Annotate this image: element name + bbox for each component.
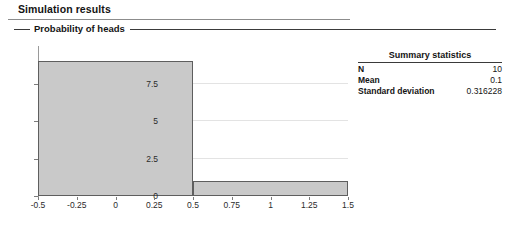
summary-statistics-title: Summary statistics <box>358 50 502 62</box>
summary-statistics-row: Standard deviation0.316228 <box>358 86 502 97</box>
x-axis-tick-label: -0.5 <box>31 200 46 210</box>
histogram-bar <box>193 181 348 196</box>
summary-statistics-value: 0.1 <box>490 75 502 86</box>
summary-statistics-label: N <box>358 64 364 75</box>
x-axis-tick-mark <box>193 197 194 200</box>
summary-statistics-value: 10 <box>493 64 502 75</box>
summary-statistics-table: Summary statistics N10Mean0.1Standard de… <box>358 50 502 97</box>
x-axis-tick-label: 0.25 <box>146 200 163 210</box>
x-axis-tick-label: 1 <box>268 200 273 210</box>
summary-statistics-divider <box>358 62 502 63</box>
y-axis-tick-mark <box>34 121 38 122</box>
summary-statistics-row: N10 <box>358 64 502 75</box>
x-axis-tick-mark <box>309 197 310 200</box>
x-axis-tick-mark <box>348 197 349 200</box>
x-axis-tick-label: 0 <box>113 200 118 210</box>
y-axis-tick-label: 2.5 <box>146 154 158 164</box>
summary-statistics-value: 0.316228 <box>467 86 502 97</box>
x-axis-tick-mark <box>154 197 155 200</box>
x-axis-tick-mark <box>116 197 117 200</box>
y-axis-tick-mark <box>34 84 38 85</box>
y-axis-tick-label: 5 <box>153 116 158 126</box>
x-axis-tick-label: -0.25 <box>67 200 86 210</box>
y-axis-tick-mark <box>34 159 38 160</box>
y-axis-tick-label: 7.5 <box>146 79 158 89</box>
summary-statistics-label: Mean <box>358 75 380 86</box>
summary-statistics-label: Standard deviation <box>358 86 435 97</box>
x-axis-tick-label: 0.75 <box>223 200 240 210</box>
x-axis-tick-mark <box>232 197 233 200</box>
x-axis-tick-mark <box>271 197 272 200</box>
histogram-bar <box>38 61 193 196</box>
summary-statistics-row: Mean0.1 <box>358 75 502 86</box>
x-axis-tick-label: 0.5 <box>187 200 199 210</box>
x-axis-tick-label: 1.25 <box>301 200 318 210</box>
histogram-chart: 02.557.5-0.5-0.2500.250.50.7511.251.5 <box>0 0 510 230</box>
x-axis-tick-mark <box>77 197 78 200</box>
x-axis-tick-mark <box>38 197 39 200</box>
x-axis-tick-label: 1.5 <box>342 200 354 210</box>
plot-area <box>38 46 348 196</box>
